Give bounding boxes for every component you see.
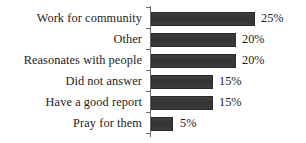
- bar-row: Pray for them 5%: [0, 114, 306, 135]
- bar-row: Reasonates with people 20%: [0, 51, 306, 72]
- value-label: 5%: [180, 116, 196, 131]
- value-label: 15%: [219, 74, 242, 89]
- category-label: Pray for them: [0, 116, 142, 131]
- bar: [151, 75, 213, 89]
- bar: [151, 117, 173, 131]
- bar-chart: Work for community 25% Other 20% Reasona…: [0, 0, 306, 143]
- bar-rows: Work for community 25% Other 20% Reasona…: [0, 0, 306, 143]
- value-label: 15%: [219, 95, 242, 110]
- bar-row: Did not answer 15%: [0, 72, 306, 93]
- bar-row: Other 20%: [0, 30, 306, 51]
- value-label: 20%: [242, 53, 265, 68]
- category-label: Other: [0, 32, 142, 47]
- bar: [151, 96, 213, 110]
- bar-row: Have a good report 15%: [0, 93, 306, 114]
- value-label: 20%: [242, 32, 265, 47]
- bar: [151, 12, 255, 26]
- bar-row: Work for community 25%: [0, 9, 306, 30]
- category-label: Did not answer: [0, 74, 142, 89]
- category-label: Reasonates with people: [0, 53, 142, 68]
- bar: [151, 54, 236, 68]
- category-label: Work for community: [0, 11, 142, 26]
- value-label: 25%: [261, 11, 284, 26]
- category-label: Have a good report: [0, 95, 142, 110]
- bar: [151, 33, 236, 47]
